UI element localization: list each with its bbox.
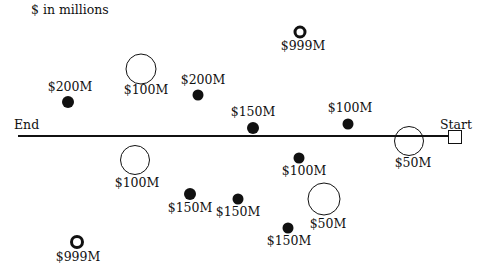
solid-dot-marker-icon [193, 90, 204, 101]
marker-value-label: $200M [181, 74, 226, 87]
open-circle-marker-icon [308, 183, 341, 216]
marker-value-label: $150M [168, 202, 213, 215]
solid-dot-marker-icon [62, 96, 74, 108]
thick-ring-marker-icon [70, 235, 84, 249]
solid-dot-marker-icon [184, 188, 196, 200]
marker-value-label: $150M [216, 206, 261, 219]
open-circle-marker-icon [394, 126, 424, 156]
marker-value-label: $999M [56, 251, 101, 264]
marker-value-label: $150M [267, 235, 312, 248]
start-square-icon [448, 130, 462, 144]
open-circle-marker-icon [120, 145, 150, 175]
marker-value-label: $50M [310, 218, 347, 231]
marker-value-label: $100M [115, 177, 160, 190]
thick-ring-marker-icon [294, 26, 307, 39]
marker-value-label: $100M [328, 102, 373, 115]
marker-value-label: $999M [281, 40, 326, 53]
marker-value-label: $100M [282, 165, 327, 178]
marker-value-label: $50M [395, 157, 432, 170]
marker-value-label: $100M [124, 84, 169, 97]
solid-dot-marker-icon [283, 223, 294, 234]
units-caption: $ in millions [31, 2, 109, 17]
solid-dot-marker-icon [247, 122, 259, 134]
marker-value-label: $150M [231, 106, 276, 119]
solid-dot-marker-icon [343, 119, 354, 130]
marker-value-label: $200M [48, 81, 93, 94]
solid-dot-marker-icon [294, 153, 305, 164]
timeline-axis [18, 135, 450, 137]
open-circle-marker-icon [126, 54, 157, 85]
end-label: End [14, 117, 39, 132]
solid-dot-marker-icon [233, 194, 244, 205]
